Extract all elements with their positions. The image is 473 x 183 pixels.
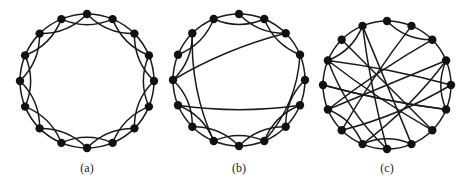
node [407, 22, 415, 30]
rewired-edge [363, 26, 388, 149]
lattice-edge [25, 55, 31, 106]
lattice-edge [113, 19, 149, 55]
node [442, 105, 450, 113]
node [57, 139, 65, 147]
node [130, 29, 138, 37]
node [188, 29, 196, 37]
node [319, 81, 327, 89]
node [35, 124, 43, 132]
rewired-edge [173, 33, 286, 80]
lattice-edge [441, 61, 446, 110]
lattice-edge [178, 19, 214, 55]
node [260, 137, 268, 145]
lattice-edge [363, 139, 412, 144]
node [210, 137, 218, 145]
node [282, 123, 290, 131]
node [210, 15, 218, 23]
node [35, 29, 43, 37]
lattice-edge [61, 19, 112, 25]
node [324, 105, 332, 113]
node [169, 76, 177, 84]
node [235, 10, 243, 18]
lattice-edge [25, 107, 61, 143]
node [188, 123, 196, 131]
node [174, 51, 182, 59]
node [301, 76, 309, 84]
node [358, 22, 366, 30]
node [260, 15, 268, 23]
node [447, 81, 455, 89]
lattice-edge [25, 19, 61, 55]
node [324, 56, 332, 64]
node [442, 56, 450, 64]
node [21, 102, 29, 110]
lattice-edge [264, 19, 300, 55]
node [145, 51, 153, 59]
node [358, 140, 366, 148]
node [428, 36, 436, 44]
lattice-edge [61, 137, 112, 143]
ring-lattice-graph [16, 10, 158, 152]
panel-a-caption: (a) [80, 161, 93, 176]
small-world-graph [169, 10, 309, 150]
lattice-edge [178, 105, 214, 141]
node [145, 102, 153, 110]
node [83, 10, 91, 18]
rewired-edge [328, 61, 451, 86]
node [235, 142, 243, 150]
panel-c-caption: (c) [380, 161, 393, 176]
node [296, 51, 304, 59]
node [16, 77, 24, 85]
node [108, 139, 116, 147]
node [130, 124, 138, 132]
node [83, 144, 91, 152]
rewired-edge [178, 105, 300, 109]
node [108, 15, 116, 23]
node [296, 101, 304, 109]
node [150, 77, 158, 85]
lattice-edge [214, 136, 265, 142]
lattice-edge [143, 55, 149, 106]
network-diagram [0, 0, 473, 183]
lattice-edge [113, 107, 149, 143]
node [338, 36, 346, 44]
node [338, 126, 346, 134]
node [21, 51, 29, 59]
node [383, 145, 391, 153]
lattice-edge [214, 19, 265, 25]
node [428, 126, 436, 134]
node [383, 17, 391, 25]
random-graph [319, 17, 455, 153]
node [174, 101, 182, 109]
node [57, 15, 65, 23]
node [282, 29, 290, 37]
node [407, 140, 415, 148]
panel-b-caption: (b) [232, 161, 246, 176]
